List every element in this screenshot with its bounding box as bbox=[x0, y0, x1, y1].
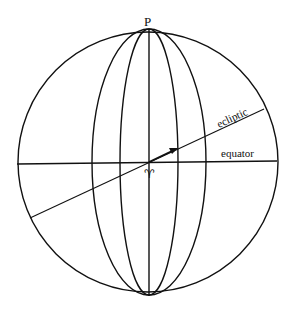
pole-label: P bbox=[144, 14, 151, 29]
ecliptic-label: ecliptic bbox=[215, 105, 250, 130]
equator-label: equator bbox=[221, 147, 254, 159]
celestial-sphere-diagram: P ecliptic equator ♈︎ bbox=[0, 0, 291, 313]
direction-arrow bbox=[149, 151, 172, 162]
vernal-equinox-symbol: ♈︎ bbox=[144, 167, 155, 181]
